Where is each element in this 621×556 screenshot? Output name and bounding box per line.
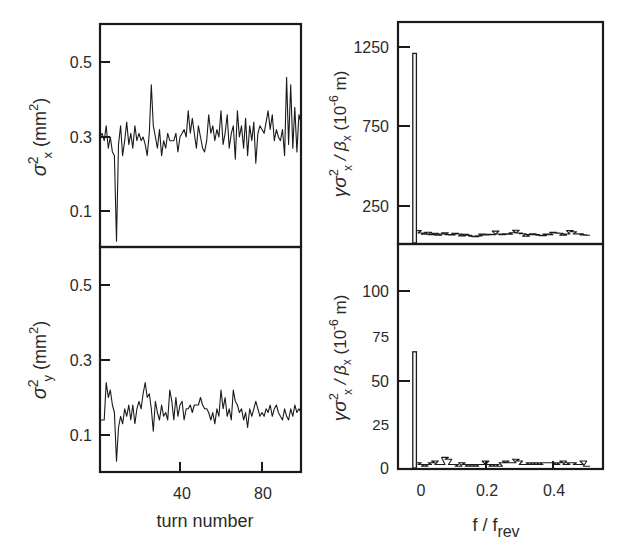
ytick-label: 0.1	[70, 427, 92, 444]
figure: 0.5 0.3 0.1 σ2x(mm2) 0.5 0.3 0.1 σ2y(mm2…	[0, 0, 621, 556]
svg-text:σ2x(mm2): σ2x(mm2)	[25, 98, 55, 177]
x-axis-label: f / frev	[472, 515, 519, 540]
xtick-label: 40	[173, 485, 191, 502]
ytick-label: 0.3	[70, 352, 92, 369]
ytick-label: 0.3	[70, 129, 92, 146]
bottom-left-ylabel: σ2y(mm2)	[25, 321, 55, 400]
bottom-right-ylabel: γσ2x / βx (10-6 m)	[326, 295, 355, 422]
ytick-label: 0.5	[70, 54, 92, 71]
svg-text:σ2y(mm2): σ2y(mm2)	[25, 321, 55, 400]
dc-spike-bar-bottom	[413, 352, 417, 468]
bottom-left-plot-frame	[100, 247, 301, 472]
ytick-label: 0.5	[70, 277, 92, 294]
ylabel-sigma: σ	[28, 163, 50, 176]
ytick-label: 75	[372, 328, 389, 345]
svg-text:γσ2x / βx (10-6 m): γσ2x / βx (10-6 m)	[326, 295, 355, 422]
top-left-ylabel: σ2x(mm2)	[25, 98, 55, 177]
ytick-label: 50	[371, 373, 389, 390]
xtick-label: 80	[254, 485, 272, 502]
ytick-label: 25	[372, 416, 389, 433]
ytick-label: 0	[380, 460, 389, 477]
ytick-label: 100	[362, 283, 389, 300]
ytick-label: 250	[362, 198, 389, 215]
top-right-ylabel: γσ2x / βx (10-6 m)	[326, 71, 355, 198]
dc-spike-bar-top	[413, 53, 417, 243]
sigma-y-trace	[100, 383, 301, 462]
ytick-label: 1250	[353, 39, 389, 56]
ytick-label: 0.1	[70, 203, 92, 220]
spectrum-trace-bottom	[415, 457, 590, 466]
right-column: 1250 750 250 γσ2x / βx (10-6 m) 100 75 5…	[326, 22, 603, 540]
sigma-x-trace	[100, 77, 301, 241]
xtick-label: 0.2	[476, 482, 498, 499]
xtick-label: 0	[417, 482, 426, 499]
bottom-right-plot-frame	[398, 244, 603, 469]
spectrum-trace-top	[415, 230, 590, 237]
svg-text:γσ2x / βx (10-6 m): γσ2x / βx (10-6 m)	[326, 71, 355, 198]
x-axis-label: turn number	[156, 511, 253, 531]
ytick-label: 750	[362, 118, 389, 135]
left-column: 0.5 0.3 0.1 σ2x(mm2) 0.5 0.3 0.1 σ2y(mm2…	[25, 24, 301, 531]
xtick-label: 0.4	[543, 482, 565, 499]
top-right-plot-frame	[398, 22, 603, 244]
